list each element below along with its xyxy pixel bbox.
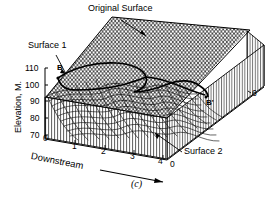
x-tick-3: 3 (130, 152, 135, 161)
x-tick-1: 1 (72, 142, 77, 151)
label-point-b-prime: B' (206, 99, 214, 107)
y-tick-100: 100 (25, 81, 39, 90)
annotation-surface-1: Surface 1 (28, 41, 67, 50)
y-tick-110: 110 (25, 64, 39, 73)
label-point-b: B (57, 64, 63, 72)
surface-plot-graphic (0, 0, 274, 201)
annotation-surface-2: Surface 2 (184, 147, 223, 156)
x-tick-4: 4 (158, 157, 163, 166)
x-tick-2: 2 (101, 147, 106, 156)
y-axis-title: Elevation, M. (13, 81, 23, 133)
figure-caption: (c) (131, 179, 142, 189)
z-tick-0: 0 (170, 160, 175, 169)
figure-3d-surface: Original Surface Surface 1 Surface 2 B B… (0, 0, 274, 201)
y-tick-90: 90 (30, 97, 39, 106)
y-tick-70: 70 (30, 131, 39, 140)
x-tick-0: 0 (43, 134, 48, 143)
y-tick-80: 80 (30, 114, 39, 123)
annotation-original-surface: Original Surface (88, 4, 153, 13)
z-tick-6: 6 (252, 89, 257, 98)
